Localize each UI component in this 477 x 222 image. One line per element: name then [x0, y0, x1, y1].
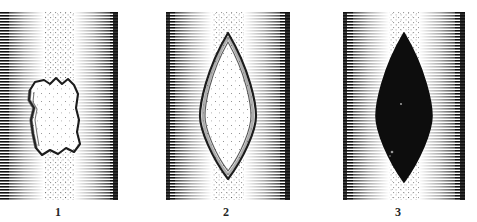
panel-2 — [166, 12, 290, 200]
panel-1-caption: 1 — [36, 203, 80, 221]
panel-1-wound-shape — [29, 78, 80, 155]
panel-3-engraving — [343, 12, 465, 200]
panel-3-caption: 3 — [376, 203, 420, 221]
panel-2-engraving — [166, 12, 290, 200]
panel-3 — [343, 12, 465, 200]
panel-1-engraving — [0, 12, 118, 200]
figure-root: 1 2 3 — [0, 0, 477, 222]
panel-2-caption: 2 — [204, 203, 248, 221]
panel-1 — [0, 12, 118, 200]
plate-row — [0, 0, 477, 222]
